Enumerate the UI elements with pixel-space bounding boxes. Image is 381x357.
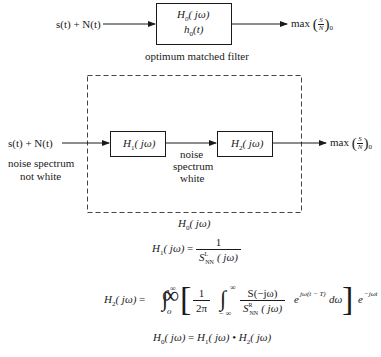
input-note-line1: noise spectrum — [8, 158, 74, 169]
top-output-label: max (SN)0 — [291, 17, 333, 32]
middle-note-line3: white — [180, 173, 204, 184]
dashed-h0-boundary — [88, 76, 302, 213]
top-caption: optimum matched filter — [145, 51, 249, 62]
bottom-input-label: s(t) + N(t) — [8, 138, 53, 149]
equation-h0: H0( jω) = H1( jω) • H2( jω) — [153, 331, 271, 346]
equation-h1: H1( jω) = 1 SLNN( jω) — [152, 236, 241, 263]
middle-note-line1: noise — [180, 149, 203, 160]
left-bracket: [ — [180, 280, 191, 318]
top-input-label: s(t) + N(t) — [56, 19, 101, 30]
right-bracket: ] — [342, 280, 353, 318]
h2-box-label: H2( jω) — [231, 138, 263, 152]
middle-note-line2: spectrum — [173, 161, 213, 172]
top-box-h0-jw: H0( jω) — [177, 9, 209, 23]
dashed-box-label: H0( jω) — [178, 218, 210, 232]
bottom-output-label: max (SN)0 — [330, 136, 372, 151]
top-box-h0-t: h0(t) — [184, 24, 203, 38]
h1-box-label: H1( jω) — [123, 138, 155, 152]
input-note-line2: not white — [20, 171, 61, 182]
